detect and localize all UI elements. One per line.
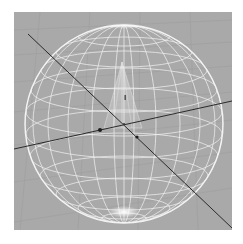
cone-object[interactable]	[104, 62, 142, 128]
3d-viewport[interactable]	[14, 12, 232, 230]
origin-point	[123, 123, 125, 125]
axis-handle-z[interactable]	[135, 135, 138, 138]
pole-highlight	[108, 206, 140, 218]
viewport-canvas[interactable]	[14, 12, 232, 230]
axis-handle-x[interactable]	[98, 128, 102, 132]
